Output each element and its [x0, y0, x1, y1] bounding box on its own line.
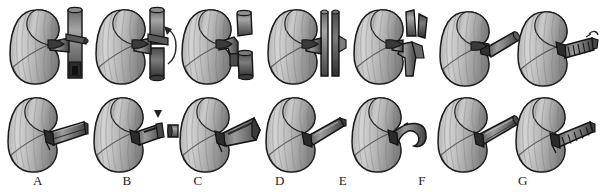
panel-label-a: A: [18, 173, 58, 189]
panel-label-c: C: [178, 173, 218, 189]
panel-label-d: D: [260, 173, 300, 189]
triangle-pointer-icon: [154, 110, 162, 118]
ligature-knot-icon: [586, 31, 598, 37]
panel-E-bottom: [350, 92, 436, 178]
vessel-flange-right: [339, 36, 346, 52]
panel-G-bottom: [516, 92, 602, 178]
figure-panel-grid: A B C D E F G: [0, 0, 603, 193]
split-vessel-left-half: [321, 10, 328, 76]
panel-A-bottom: [6, 92, 92, 178]
panel-label-f: F: [402, 173, 442, 189]
panel-D-bottom: [264, 92, 350, 178]
panel-C-top: [178, 4, 264, 90]
vessel-flap-upper-left: [406, 10, 416, 36]
panel-E-top: [350, 4, 436, 90]
stapled-vessel-stump: [562, 31, 598, 58]
split-vessel-right-half: [332, 10, 339, 76]
divided-vessel-upper-segment: [237, 10, 252, 36]
panel-label-e: E: [323, 173, 363, 189]
divided-vessel-lower-segment: [238, 50, 253, 79]
panel-D-top: [264, 4, 350, 90]
panel-label-b: B: [107, 173, 147, 189]
vessel-flap-upper-right: [418, 14, 427, 38]
panel-label-g: G: [503, 173, 543, 189]
panel-F-bottom: [436, 92, 522, 178]
excised-ring-segment: [168, 125, 178, 137]
panel-A-top: [6, 4, 92, 90]
panel-C-bottom: [178, 92, 264, 178]
panel-B-top: [92, 4, 178, 90]
panel-G-top: [516, 4, 602, 90]
panel-label-row: A B C D E F G: [0, 170, 603, 193]
panel-F-top: [436, 4, 522, 90]
panel-B-bottom: [92, 92, 178, 178]
